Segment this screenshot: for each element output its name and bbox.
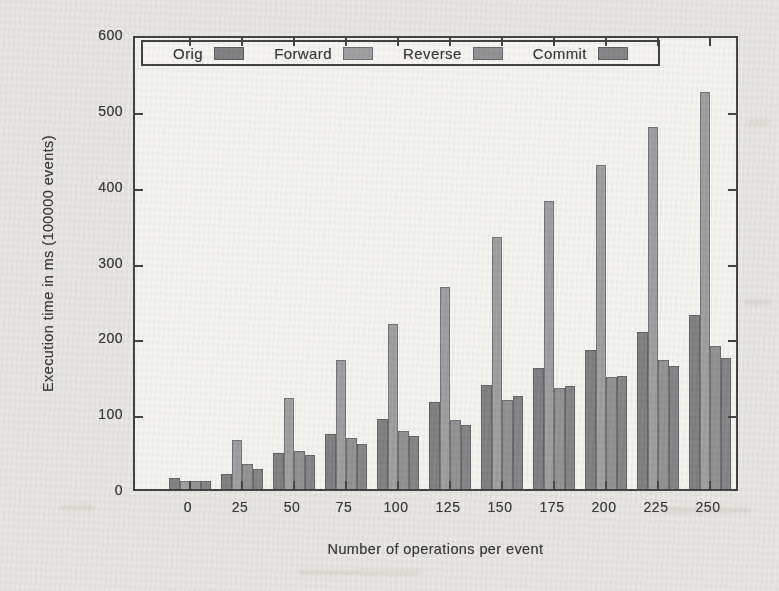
legend-swatch-reverse xyxy=(473,47,503,60)
x-tick-label: 100 xyxy=(374,499,418,515)
legend-swatch-forward xyxy=(343,47,373,60)
bar-commit-125 xyxy=(461,425,472,489)
bar-orig-150 xyxy=(481,385,492,489)
y-tick-mark xyxy=(728,265,736,267)
y-tick-mark xyxy=(135,265,143,267)
x-tick-mark xyxy=(501,481,503,489)
y-tick-mark xyxy=(728,416,736,418)
x-tick-label: 150 xyxy=(478,499,522,515)
bar-orig-175 xyxy=(533,368,544,489)
x-tick-mark xyxy=(397,38,399,46)
bar-reverse-125 xyxy=(450,420,461,489)
x-tick-mark xyxy=(449,38,451,46)
bar-reverse-50 xyxy=(294,451,305,489)
y-tick-mark xyxy=(728,113,736,115)
x-tick-label: 75 xyxy=(322,499,366,515)
y-tick-mark xyxy=(728,340,736,342)
legend-label-orig: Orig xyxy=(173,45,203,62)
y-tick-label: 0 xyxy=(83,482,123,498)
x-tick-mark xyxy=(345,38,347,46)
x-tick-label: 250 xyxy=(686,499,730,515)
bar-forward-150 xyxy=(492,237,503,489)
legend-item-forward: Forward xyxy=(274,45,373,62)
y-axis-title: Execution time in ms (100000 events) xyxy=(38,36,58,491)
bar-reverse-225 xyxy=(658,360,669,489)
x-tick-mark xyxy=(449,481,451,489)
y-tick-label: 500 xyxy=(83,103,123,119)
y-tick-mark xyxy=(135,113,143,115)
bar-forward-75 xyxy=(336,360,347,489)
y-tick-label: 400 xyxy=(83,179,123,195)
y-tick-label: 600 xyxy=(83,27,123,43)
x-tick-mark xyxy=(605,481,607,489)
scanned-page: Execution time in ms (100000 events) Ori… xyxy=(0,0,779,591)
legend-label-reverse: Reverse xyxy=(403,45,462,62)
bar-reverse-175 xyxy=(554,388,565,489)
bar-commit-0 xyxy=(201,481,212,489)
x-tick-mark xyxy=(657,38,659,46)
bar-reverse-75 xyxy=(346,438,357,489)
legend-label-commit: Commit xyxy=(533,45,587,62)
x-tick-label: 200 xyxy=(582,499,626,515)
bar-orig-250 xyxy=(689,315,700,489)
bar-reverse-25 xyxy=(242,464,253,489)
x-tick-mark xyxy=(501,38,503,46)
x-tick-mark xyxy=(293,38,295,46)
x-tick-label: 225 xyxy=(634,499,678,515)
x-tick-label: 175 xyxy=(530,499,574,515)
legend-swatch-commit xyxy=(598,47,628,60)
bar-orig-75 xyxy=(325,434,336,489)
bar-orig-50 xyxy=(273,453,284,489)
bar-reverse-100 xyxy=(398,431,409,489)
bar-chart-figure: Execution time in ms (100000 events) Ori… xyxy=(0,0,779,591)
bar-forward-175 xyxy=(544,201,555,489)
bar-commit-75 xyxy=(357,444,368,490)
x-tick-mark xyxy=(241,38,243,46)
bar-forward-200 xyxy=(596,165,607,489)
bar-reverse-200 xyxy=(606,377,617,489)
x-axis-title: Number of operations per event xyxy=(133,541,738,557)
y-tick-mark xyxy=(135,416,143,418)
x-tick-mark xyxy=(189,481,191,489)
bar-forward-125 xyxy=(440,287,451,489)
plot-area: OrigForwardReverseCommit xyxy=(133,36,738,491)
legend-item-reverse: Reverse xyxy=(403,45,503,62)
bar-commit-175 xyxy=(565,386,576,489)
y-tick-label: 200 xyxy=(83,330,123,346)
x-tick-mark xyxy=(397,481,399,489)
y-tick-mark xyxy=(135,340,143,342)
bar-forward-50 xyxy=(284,398,295,489)
bar-orig-100 xyxy=(377,419,388,489)
bar-commit-25 xyxy=(253,469,264,489)
bar-orig-25 xyxy=(221,474,232,489)
bar-commit-225 xyxy=(669,366,680,489)
x-tick-mark xyxy=(553,38,555,46)
x-tick-mark xyxy=(553,481,555,489)
bar-forward-225 xyxy=(648,127,659,489)
y-tick-label: 300 xyxy=(83,255,123,271)
legend-swatch-orig xyxy=(214,47,244,60)
x-tick-label: 25 xyxy=(218,499,262,515)
bar-reverse-0 xyxy=(190,481,201,489)
x-tick-mark xyxy=(709,481,711,489)
y-tick-label: 100 xyxy=(83,406,123,422)
bar-commit-200 xyxy=(617,376,628,489)
x-tick-mark xyxy=(293,481,295,489)
x-tick-mark xyxy=(605,38,607,46)
x-tick-label: 50 xyxy=(270,499,314,515)
y-tick-mark xyxy=(135,189,143,191)
bar-commit-50 xyxy=(305,455,316,489)
bar-orig-0 xyxy=(169,478,180,489)
bar-commit-250 xyxy=(721,358,732,489)
bar-orig-225 xyxy=(637,332,648,489)
bar-forward-100 xyxy=(388,324,399,489)
x-tick-mark xyxy=(709,38,711,46)
x-tick-mark xyxy=(241,481,243,489)
y-tick-mark xyxy=(728,189,736,191)
bar-forward-250 xyxy=(700,92,711,489)
x-tick-mark xyxy=(189,38,191,46)
x-tick-label: 0 xyxy=(166,499,210,515)
legend-item-orig: Orig xyxy=(173,45,244,62)
bar-reverse-250 xyxy=(710,346,721,489)
x-tick-label: 125 xyxy=(426,499,470,515)
